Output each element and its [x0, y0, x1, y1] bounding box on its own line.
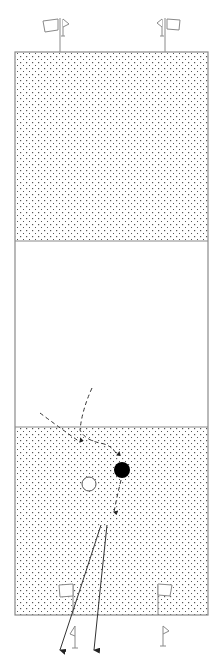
- field-diagram-canvas: [0, 0, 220, 671]
- filled-ball: [114, 462, 130, 478]
- bottom-zone: [15, 427, 208, 615]
- middle-zone: [15, 241, 208, 427]
- flag-icon: [70, 626, 78, 648]
- field-diagram: [0, 0, 220, 671]
- flag-icon: [43, 18, 69, 52]
- flag-icon: [157, 18, 180, 52]
- open-ball: [82, 477, 96, 491]
- top-zone: [15, 52, 208, 241]
- flag-icon: [160, 626, 169, 646]
